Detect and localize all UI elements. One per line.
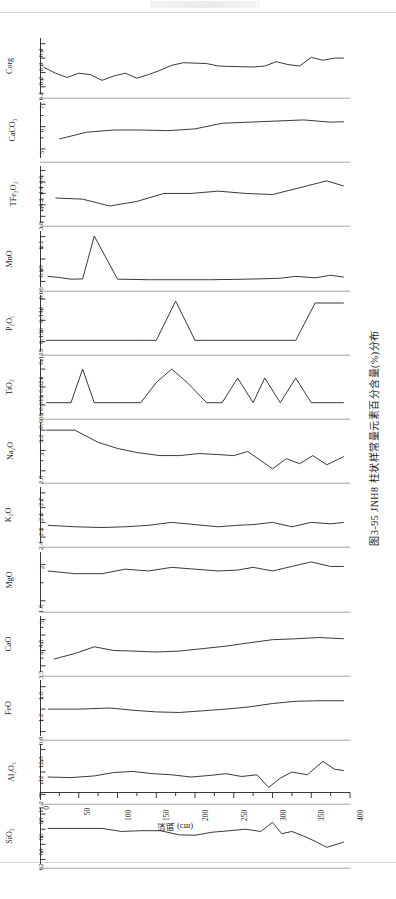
data-series-na2o	[46, 430, 344, 469]
plot-area-mno	[40, 231, 350, 287]
plot-svg	[40, 616, 350, 672]
plot-area-corg	[40, 38, 350, 94]
y-tick-labels-feo: 0.81.21.6	[16, 680, 38, 736]
scan-header-rule	[0, 12, 396, 13]
plot-svg	[40, 552, 350, 608]
y-tick-labels-mgo: 1.62	[16, 552, 38, 608]
x-tick-label: 150	[162, 810, 171, 821]
plot-svg	[40, 423, 350, 479]
plot-area-mgo	[40, 552, 350, 608]
plot-svg	[40, 487, 350, 543]
y-axis-title-na2o: Na₂O	[7, 442, 15, 460]
chart-panel-mgo: MgO1.62	[0, 552, 350, 608]
y-axis-title-feo: FeO	[5, 701, 13, 715]
y-tick-labels-cao: 3.544.55	[16, 616, 38, 672]
y-tick-labels-corg: 0.10.20.30.4	[16, 38, 38, 94]
scan-header-artifact	[150, 1, 260, 8]
plot-svg	[40, 680, 350, 736]
y-tick-labels-al2o3: 11.21212.8	[16, 744, 38, 800]
plot-area-caco3	[40, 102, 350, 158]
x-axis-title-text: 深度 (cm)	[157, 822, 193, 834]
data-series-tfe2o3	[56, 181, 344, 206]
chart-panel-caco3: CaCO₃567	[0, 102, 350, 158]
data-series-cao	[54, 637, 344, 659]
plot-area-cao	[40, 616, 350, 672]
x-axis-svg	[40, 792, 350, 802]
y-axis-title-al2o3: Al₂O₃	[8, 763, 16, 782]
y-tick-labels-tio2: 0.6080.6160.624	[16, 359, 38, 415]
data-series-mgo	[48, 562, 344, 574]
plot-svg	[40, 38, 350, 94]
plot-area-feo	[40, 680, 350, 736]
chart-panel-mno: MnO0.060.080.1	[0, 231, 350, 287]
plot-svg	[40, 295, 350, 351]
figure-caption: 图3-95 JNH8 柱状样常量元素百分含量(%)分布	[352, 18, 394, 858]
chart-panel-tio2: TiO₂0.6080.6160.624	[0, 359, 350, 415]
plot-area-k2o	[40, 487, 350, 543]
data-series-p2o5	[46, 301, 344, 340]
data-series-tio2	[46, 369, 344, 403]
data-series-k2o	[48, 523, 344, 528]
y-tick-label: 62	[38, 863, 45, 870]
y-tick-labels-na2o: 2.833.2	[16, 423, 38, 479]
x-axis-title: 深度 (cm)	[0, 822, 350, 834]
plot-area-p2o5	[40, 295, 350, 351]
y-axis-title-corg: Corg	[6, 58, 14, 74]
y-axis-title-cao: CaO	[5, 636, 13, 651]
data-series-caco3	[59, 120, 343, 139]
plot-area-na2o	[40, 423, 350, 479]
chart-panel-na2o: Na₂O2.833.2	[0, 423, 350, 479]
chart-panel-corg: Corg0.10.20.30.4	[0, 38, 350, 94]
x-tick-label: 100	[123, 810, 132, 821]
data-series-feo	[48, 701, 344, 713]
figure-caption-text: 图3-95 JNH8 柱状样常量元素百分含量(%)分布	[366, 330, 381, 545]
y-axis-title-mno: MnO	[6, 250, 14, 267]
y-axis-title-mgo: MgO	[6, 571, 14, 588]
data-series-mno	[48, 236, 344, 280]
chart-panel-feo: FeO0.81.21.6	[0, 680, 350, 736]
y-axis-title-p2o5: P₂O₅	[6, 315, 14, 331]
plot-svg	[40, 102, 350, 158]
data-series-al2o3	[48, 762, 344, 788]
plot-svg	[40, 359, 350, 415]
x-tick-label: 250	[239, 810, 248, 821]
plot-area-tfe2o3	[40, 166, 350, 222]
plot-svg	[40, 166, 350, 222]
x-tick-label: 200	[201, 810, 210, 821]
y-axis-title-tio2: TiO₂	[6, 379, 14, 394]
chart-panel-cao: CaO3.544.55	[0, 616, 350, 672]
y-tick-labels-mno: 0.060.080.1	[16, 231, 38, 287]
data-series-corg	[44, 57, 344, 80]
figure-panels-container: Corg0.10.20.30.4CaCO₃567TFe₂O₃3.844.24.4…	[0, 18, 396, 858]
x-tick-label: 50	[83, 808, 92, 816]
chart-panel-tfe2o3: TFe₂O₃3.844.24.44.6	[0, 166, 350, 222]
chart-panel-p2o5: P₂O₅0.1280.1360.144	[0, 295, 350, 351]
y-tick-labels-tfe2o3: 3.844.24.44.6	[16, 166, 38, 222]
plot-svg	[40, 231, 350, 287]
y-tick-labels-sio2: 62646668	[16, 808, 38, 864]
x-tick-label: 350	[317, 810, 326, 821]
y-tick-labels-p2o5: 0.1280.1360.144	[16, 295, 38, 351]
y-tick-labels-k2o: 2.42.52.62.7	[16, 487, 38, 543]
plot-area-tio2	[40, 359, 350, 415]
y-tick-labels-caco3: 567	[16, 102, 38, 158]
x-tick-label: 300	[278, 810, 287, 821]
x-tick-label: 0	[42, 806, 51, 810]
y-axis-title-k2o: K₂O	[5, 508, 13, 522]
chart-panel-k2o: K₂O2.42.52.62.7	[0, 487, 350, 543]
